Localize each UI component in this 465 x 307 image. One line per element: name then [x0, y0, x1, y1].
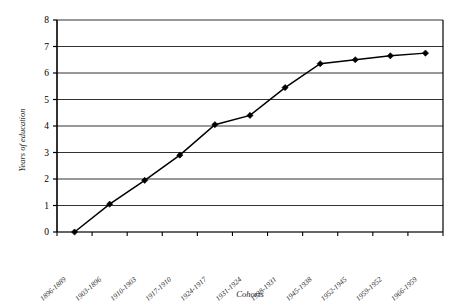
y-axis-tick-label: 4: [44, 121, 49, 131]
y-axis-tick-label: 7: [44, 42, 49, 52]
y-axis-tick-label: 2: [44, 174, 49, 184]
y-axis-tick-label: 6: [44, 68, 49, 78]
y-axis-tick-label: 5: [44, 95, 49, 105]
y-axis-tick-label: 1: [44, 201, 49, 211]
line-chart: 012345678 1896-18891903-18961910-1903191…: [0, 0, 465, 307]
y-axis-tick-labels: 012345678: [44, 15, 49, 237]
x-axis-title: Cohorts: [236, 289, 264, 299]
y-axis-tick-label: 0: [44, 227, 49, 237]
y-axis-tick-label: 8: [44, 15, 49, 25]
chart-container: 012345678 1896-18891903-18961910-1903191…: [0, 0, 465, 307]
y-axis-tick-label: 3: [44, 148, 49, 158]
y-axis-title: Years of education: [17, 109, 27, 172]
